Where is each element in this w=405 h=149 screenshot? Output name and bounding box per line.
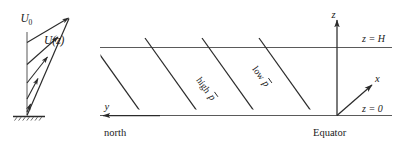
u-of-z-label: U(z) xyxy=(44,34,65,47)
z-equals-zero-label: z = 0 xyxy=(361,103,383,114)
ground-hatching xyxy=(15,117,42,120)
north-label: north xyxy=(104,127,127,138)
z-axis-label: z xyxy=(331,9,336,20)
low-pressure-label-text: low xyxy=(250,64,266,82)
high-pressure-label-text: high xyxy=(194,75,212,95)
u-zero-label: U 0 xyxy=(21,12,33,27)
domain-box-group: z x y z = H z = 0 Equator north high p l xyxy=(88,9,392,138)
equator-label: Equator xyxy=(313,127,347,138)
u-zero-label-subscript: 0 xyxy=(29,18,33,27)
isobar-line-4 xyxy=(259,38,326,132)
velocity-profile-group: U 0 U(z) xyxy=(13,12,69,121)
x-axis-label: x xyxy=(374,73,380,84)
high-pressure-label: high p xyxy=(194,75,218,103)
z-equals-h-label: z = H xyxy=(361,33,386,44)
schematic-figure: U 0 U(z) z x xyxy=(0,0,405,149)
velocity-arrows xyxy=(27,18,69,112)
high-pressure-label-symbol: p xyxy=(206,91,218,102)
figure-container: U 0 U(z) z x xyxy=(0,0,405,149)
isobar-line-1 xyxy=(88,38,155,132)
y-axis-label: y xyxy=(104,101,110,112)
isobar-line-3 xyxy=(202,38,269,132)
low-pressure-label: low p xyxy=(250,64,272,89)
